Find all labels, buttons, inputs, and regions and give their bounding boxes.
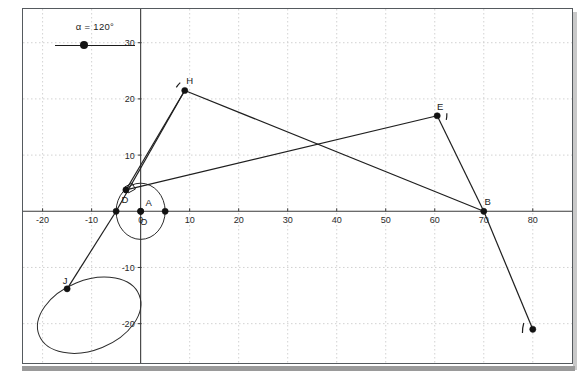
alpha-slider[interactable]: α = 120° bbox=[49, 21, 141, 57]
point-D[interactable] bbox=[123, 187, 129, 193]
arcs-layer bbox=[125, 83, 524, 333]
B-to-bottomright bbox=[484, 211, 533, 329]
window-bottom-shadow bbox=[22, 366, 575, 371]
shapes-layer bbox=[26, 183, 165, 363]
point-B[interactable] bbox=[481, 208, 487, 214]
point-H[interactable] bbox=[182, 87, 188, 93]
x-tick-label: 60 bbox=[430, 215, 440, 225]
x-tick-label: 20 bbox=[234, 215, 244, 225]
point-label-J: J bbox=[63, 275, 68, 286]
point-label-H: H bbox=[186, 75, 193, 86]
tick-labels-layer: -20-1001020304050607080302010-10-20 bbox=[36, 38, 538, 329]
point-label-D: D bbox=[122, 194, 129, 205]
x-tick-label: 10 bbox=[185, 215, 195, 225]
point-label-B: B bbox=[485, 196, 491, 207]
coordinate-plane[interactable]: -20-1001020304050607080302010-10-20 HEBA… bbox=[23, 9, 572, 363]
grid-layer bbox=[23, 9, 572, 363]
canvas-frame: -20-1001020304050607080302010-10-20 HEBA… bbox=[22, 8, 573, 364]
x-tick-label: 40 bbox=[332, 215, 342, 225]
point-label-A: A bbox=[145, 197, 152, 208]
x-tick-label: 80 bbox=[528, 215, 538, 225]
point-E[interactable] bbox=[434, 113, 440, 119]
geometry-applet: -20-1001020304050607080302010-10-20 HEBA… bbox=[0, 0, 587, 376]
E-to-B bbox=[437, 116, 484, 212]
point-labels-layer: HEBADOJ bbox=[63, 75, 491, 285]
arc-at-E bbox=[446, 113, 447, 120]
y-tick-label: 20 bbox=[125, 94, 135, 104]
window-right-shadow bbox=[573, 12, 577, 370]
segments-layer bbox=[67, 90, 533, 329]
x-tick-label: -20 bbox=[36, 215, 49, 225]
D-to-E bbox=[126, 116, 437, 190]
x-tick-label: 30 bbox=[283, 215, 293, 225]
alpha-slider-track[interactable] bbox=[55, 45, 135, 46]
points-layer[interactable] bbox=[64, 87, 536, 332]
ellipse-J bbox=[26, 263, 152, 363]
point-Pleft[interactable] bbox=[113, 208, 119, 214]
point-O[interactable] bbox=[138, 208, 144, 214]
point-label-E: E bbox=[437, 101, 443, 112]
y-tick-label: -10 bbox=[122, 263, 135, 273]
x-tick-label: -10 bbox=[85, 215, 98, 225]
arc-at-bottomright bbox=[522, 323, 523, 333]
alpha-slider-knob[interactable] bbox=[80, 41, 88, 49]
x-tick-label: 50 bbox=[381, 215, 391, 225]
arc-at-H bbox=[176, 83, 180, 88]
y-tick-label: -20 bbox=[122, 319, 135, 329]
point-J[interactable] bbox=[64, 286, 70, 292]
axes-layer bbox=[23, 9, 572, 363]
y-tick-label: 10 bbox=[125, 151, 135, 161]
point-Pbottomright[interactable] bbox=[530, 326, 536, 332]
alpha-slider-label: α = 120° bbox=[49, 21, 141, 32]
point-Pright[interactable] bbox=[162, 208, 168, 214]
point-label-O: O bbox=[140, 216, 147, 227]
